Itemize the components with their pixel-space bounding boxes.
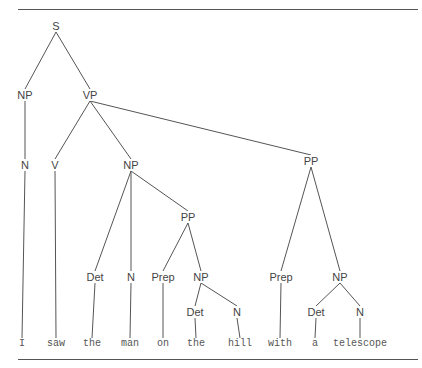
leaf-word: on bbox=[157, 338, 169, 350]
tree-node-s: S bbox=[51, 20, 60, 32]
leaf-word: with bbox=[268, 338, 292, 350]
tree-edge bbox=[188, 223, 201, 271]
tree-node-prep: Prep bbox=[268, 271, 293, 283]
leaf-word: saw bbox=[47, 338, 65, 350]
tree-node-np: NP bbox=[122, 159, 139, 171]
tree-edge bbox=[95, 171, 131, 271]
tree-edge bbox=[25, 32, 56, 89]
tree-node-v: V bbox=[50, 159, 59, 171]
tree-edge bbox=[340, 283, 360, 306]
tree-node-n: N bbox=[355, 306, 365, 318]
leaf-word: a bbox=[312, 338, 318, 350]
tree-edge bbox=[316, 283, 340, 306]
tree-edge bbox=[237, 318, 240, 338]
leaf-word: hill bbox=[228, 338, 252, 350]
tree-edge bbox=[201, 283, 237, 306]
tree-node-det: Det bbox=[85, 271, 104, 283]
tree-node-pp: PP bbox=[180, 211, 197, 223]
tree-edge bbox=[22, 171, 25, 338]
tree-edge bbox=[56, 32, 90, 89]
tree-edge bbox=[55, 101, 90, 159]
syntax-tree-diagram: SNPVPNVNPPPPPDetNPrepNPPrepNPDetNDetN Is… bbox=[0, 0, 422, 368]
tree-edge bbox=[131, 171, 188, 211]
tree-node-n: N bbox=[232, 306, 242, 318]
top-rule bbox=[18, 9, 418, 10]
tree-node-det: Det bbox=[306, 306, 325, 318]
tree-edge bbox=[90, 101, 311, 155]
tree-node-np: NP bbox=[16, 89, 33, 101]
leaf-word: man bbox=[121, 338, 139, 350]
tree-edge bbox=[55, 171, 56, 338]
leaf-word: I bbox=[19, 338, 25, 350]
tree-node-vp: VP bbox=[82, 89, 99, 101]
tree-edge bbox=[311, 167, 340, 271]
tree-node-np: NP bbox=[192, 271, 209, 283]
tree-node-det: Det bbox=[185, 306, 204, 318]
tree-edge bbox=[281, 167, 311, 271]
tree-edge bbox=[130, 283, 131, 338]
tree-edge bbox=[195, 318, 196, 338]
tree-edge bbox=[92, 283, 95, 338]
leaf-word: telescope bbox=[333, 338, 387, 350]
leaf-word: the bbox=[187, 338, 205, 350]
tree-node-n: N bbox=[20, 159, 30, 171]
tree-node-n: N bbox=[126, 271, 136, 283]
bottom-rule bbox=[18, 359, 418, 360]
leaf-word: the bbox=[83, 338, 101, 350]
tree-edge bbox=[195, 283, 201, 306]
tree-edge bbox=[163, 223, 188, 271]
tree-node-prep: Prep bbox=[150, 271, 175, 283]
tree-edge bbox=[280, 283, 281, 338]
tree-edge bbox=[315, 318, 316, 338]
tree-node-pp: PP bbox=[303, 155, 320, 167]
tree-node-np: NP bbox=[331, 271, 348, 283]
